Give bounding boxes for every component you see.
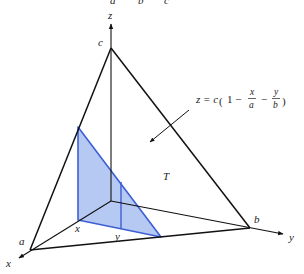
tetrahedron-diagram: a b c z x y c a b x y T z = c ( 1 − x a …: [0, 0, 304, 274]
z-axis-label: z: [107, 9, 113, 21]
top-label-a: a: [110, 0, 116, 6]
formula-minus: −: [261, 93, 267, 105]
point-a-label: a: [19, 235, 25, 247]
slice-x-label: x: [74, 222, 80, 234]
formula-right-paren: ): [282, 95, 286, 108]
top-label-c: c: [164, 0, 169, 6]
y-axis-label: y: [288, 231, 294, 243]
pointer-arrow: [150, 110, 189, 142]
point-b-label: b: [254, 213, 260, 225]
top-label-b: b: [138, 0, 144, 6]
formula-frac2-den: b: [273, 100, 278, 110]
formula-left-paren: (: [219, 95, 223, 108]
formula-one-minus: 1 −: [227, 93, 241, 105]
slice-region: [78, 127, 161, 237]
formula-frac1-num: x: [249, 87, 255, 97]
formula-frac1-den: a: [249, 100, 254, 110]
region-T-label: T: [163, 170, 170, 182]
formula-frac2-num: y: [273, 87, 279, 97]
plane-formula: z = c ( 1 − x a − y b ): [195, 87, 286, 110]
x-axis-label: x: [5, 257, 11, 269]
point-c-label: c: [98, 36, 103, 48]
slice-y-label: y: [114, 230, 120, 242]
formula-lhs: z = c: [195, 93, 218, 105]
